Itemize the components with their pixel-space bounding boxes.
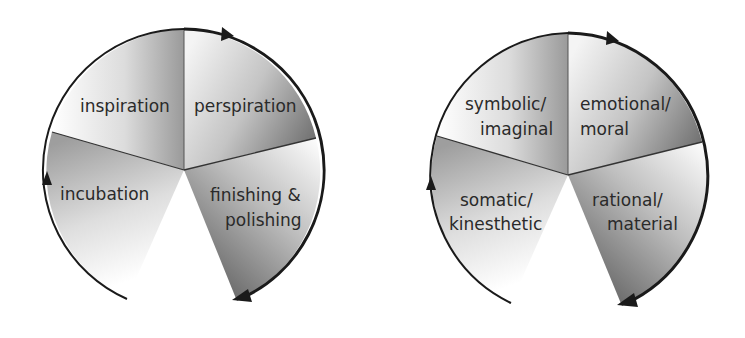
creative-process-diagram: inspiration perspiration finishing & pol… [42, 27, 324, 302]
label-kinesthetic: kinesthetic [449, 214, 542, 234]
label-finishing-line1: finishing & [210, 185, 301, 205]
label-perspiration: perspiration [194, 96, 297, 116]
label-finishing-line2: polishing [225, 210, 302, 230]
label-imaginal: imaginal [480, 119, 553, 139]
modes-of-knowing-diagram: symbolic/ imaginal emotional/ moral rati… [426, 31, 708, 307]
label-moral: moral [580, 119, 629, 139]
diagram-canvas: inspiration perspiration finishing & pol… [0, 0, 745, 338]
label-rational: rational/ [592, 190, 663, 210]
label-material: material [607, 214, 678, 234]
label-inspiration: inspiration [80, 96, 170, 116]
label-emotional: emotional/ [580, 94, 671, 114]
label-symbolic: symbolic/ [465, 94, 546, 114]
label-somatic: somatic/ [460, 190, 533, 210]
label-incubation: incubation [60, 184, 149, 204]
